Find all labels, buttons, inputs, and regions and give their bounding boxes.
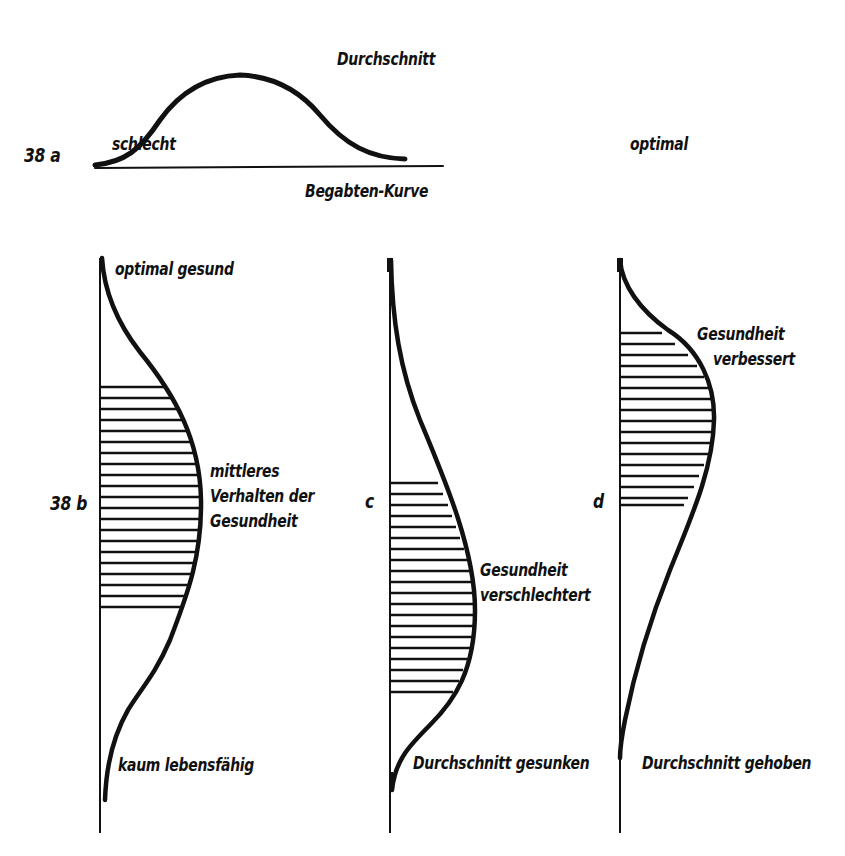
figure-38c-curve — [387, 258, 475, 833]
label-line: Verhalten der — [210, 484, 314, 509]
caption-begabten-kurve: Begabten-Kurve — [305, 180, 428, 202]
label-gesundheit-verbessert: Gesundheit verbessert — [697, 322, 804, 372]
label-line: verschlechtert — [480, 583, 591, 608]
label-line: verbessert — [713, 347, 800, 372]
baseline-axis — [95, 166, 443, 168]
label-optimal: optimal — [630, 133, 688, 155]
figure-number-38a: 38 a — [24, 144, 61, 166]
label-line: Gesundheit — [697, 322, 784, 347]
label-durchschnitt: Durchschnitt — [337, 48, 435, 70]
label-durchschnitt-gesunken: Durchschnitt gesunken — [413, 752, 589, 774]
diagram-canvas — [0, 0, 845, 856]
hatching — [390, 483, 474, 692]
figure-38b-curve — [100, 258, 201, 833]
axis-cap-bottom — [389, 772, 393, 790]
distribution-curve — [391, 260, 475, 790]
label-line: mittleres — [210, 459, 314, 484]
label-line: Gesundheit — [210, 509, 314, 534]
axis-cap-top — [387, 258, 393, 272]
figure-number-38d: d — [593, 490, 604, 512]
label-mittleres-verhalten: mittleres Verhalten der Gesundheit — [210, 459, 337, 534]
label-schlecht: schlecht — [112, 133, 176, 155]
figure-number-38c: c — [365, 490, 374, 512]
figure-number-38b: 38 b — [50, 492, 87, 514]
label-durchschnitt-gehoben: Durchschnitt gehoben — [642, 752, 811, 774]
label-gesundheit-verschlechtert: Gesundheit verschlechtert — [480, 558, 615, 608]
label-line: Gesundheit — [480, 558, 591, 583]
axis-cap-top — [617, 258, 623, 272]
label-optimal-gesund: optimal gesund — [115, 258, 234, 280]
label-kaum-lebensfaehig: kaum lebensfähig — [118, 754, 254, 776]
